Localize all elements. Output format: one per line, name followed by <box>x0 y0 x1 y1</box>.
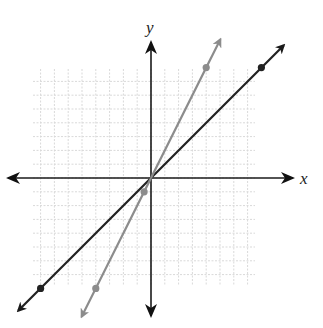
line-segment <box>82 178 151 317</box>
data-point <box>37 285 44 292</box>
data-point <box>203 64 210 71</box>
data-point <box>258 64 265 71</box>
y-axis-label: y <box>144 18 154 37</box>
x-axis-label: x <box>299 169 308 188</box>
data-point <box>92 285 99 292</box>
data-point <box>141 188 148 195</box>
coordinate-plane: x y <box>0 0 323 328</box>
